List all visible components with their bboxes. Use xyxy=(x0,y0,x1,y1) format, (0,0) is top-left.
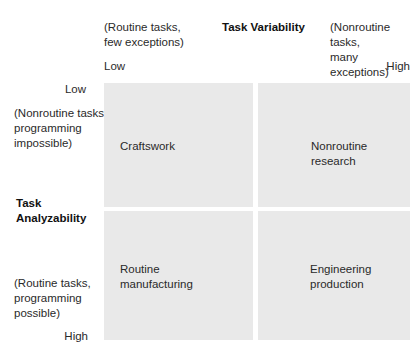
text-line: (Nonroutine tasks, xyxy=(14,106,107,121)
quadrant-routine-manufacturing: Routine manufacturing xyxy=(104,211,253,340)
y-axis-high-label: High xyxy=(64,329,88,344)
text-line: (Nonroutine tasks, xyxy=(330,20,419,50)
text-line: Craftswork xyxy=(120,139,175,154)
text-line: Analyzability xyxy=(16,211,86,226)
text-line: Nonroutine xyxy=(311,139,367,154)
text-line: Routine xyxy=(120,262,193,277)
quadrant-label: Routine manufacturing xyxy=(120,262,193,292)
quadrant-craftswork: Craftswork xyxy=(104,83,253,207)
text-line: production xyxy=(310,277,371,292)
text-line: programming xyxy=(14,121,107,136)
quadrant-nonroutine-research: Nonroutine research xyxy=(258,83,410,207)
text-line: impossible) xyxy=(14,136,107,151)
text-line: research xyxy=(311,154,367,169)
text-line: manufacturing xyxy=(120,277,193,292)
quadrant-label: Engineering production xyxy=(310,262,371,292)
text-line: Task xyxy=(16,196,86,211)
y-axis-bottom-description: (Routine tasks, programming possible) xyxy=(14,276,91,321)
quadrant-label: Craftswork xyxy=(120,139,175,154)
quadrant-engineering-production: Engineering production xyxy=(258,211,410,340)
text-line: (Routine tasks, xyxy=(14,276,91,291)
y-axis-low-label: Low xyxy=(65,82,86,97)
text-line: possible) xyxy=(14,306,91,321)
x-axis-left-description: (Routine tasks, few exceptions) xyxy=(104,20,184,50)
x-axis-high-label: High xyxy=(386,59,410,74)
y-axis-title: Task Analyzability xyxy=(16,196,86,226)
quadrant-label: Nonroutine research xyxy=(311,139,367,169)
x-axis-title: Task Variability xyxy=(222,20,305,35)
text-line: few exceptions) xyxy=(104,35,184,50)
text-line: (Routine tasks, xyxy=(104,20,184,35)
text-line: Engineering xyxy=(310,262,371,277)
y-axis-top-description: (Nonroutine tasks, programming impossibl… xyxy=(14,106,107,151)
text-line: programming xyxy=(14,291,91,306)
x-axis-low-label: Low xyxy=(104,59,125,74)
